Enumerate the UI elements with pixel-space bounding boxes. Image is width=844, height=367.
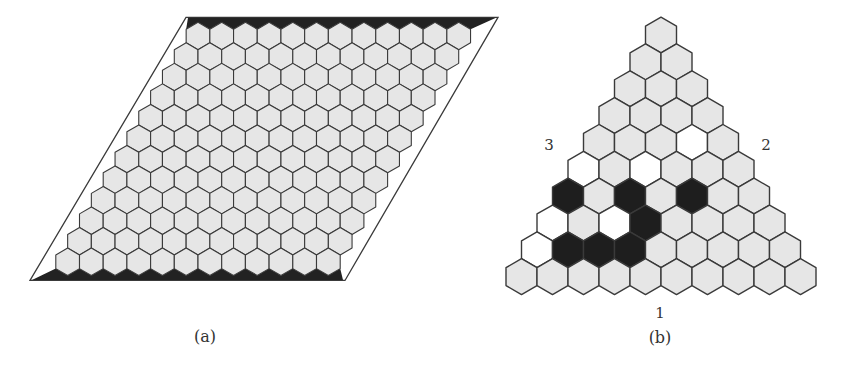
board-cells <box>506 17 816 294</box>
caption-b: (b) <box>649 328 672 347</box>
figure-canvas: (a) 3 2 1 (b) <box>0 0 844 367</box>
hex-board-rhombus <box>30 17 498 280</box>
side-label-1: 1 <box>655 304 665 322</box>
caption-a: (a) <box>194 327 216 346</box>
hex-board-triangle <box>506 17 816 294</box>
side-label-2: 2 <box>761 136 771 154</box>
board-cells <box>56 22 471 275</box>
side-label-3: 3 <box>544 136 554 154</box>
